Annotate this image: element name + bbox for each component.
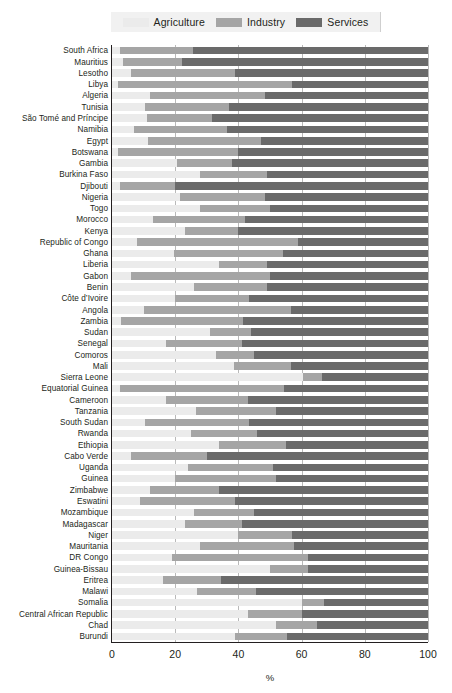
bar-segment-industry: [145, 419, 249, 427]
bar-segment-services: [245, 216, 428, 224]
y-axis-label: Senegal: [0, 339, 108, 348]
bar-segment-industry: [120, 182, 175, 190]
bar-segment-services: [291, 306, 428, 314]
bar-segment-industry: [134, 126, 227, 134]
bar-row: [112, 137, 428, 145]
bar-segment-industry: [219, 261, 266, 269]
bar-rows: [112, 45, 428, 642]
bar-segment-industry: [270, 565, 308, 573]
bar-segment-industry: [118, 148, 238, 156]
bar-row: [112, 193, 428, 201]
bar-segment-services: [251, 328, 428, 336]
y-axis-label: Tunisia: [0, 103, 108, 112]
bar-segment-agriculture: [112, 633, 235, 641]
y-axis-label: Sudan: [0, 328, 108, 337]
bar-segment-services: [283, 250, 428, 258]
bar-row: [112, 238, 428, 246]
bar-segment-industry: [188, 464, 273, 472]
bar-segment-agriculture: [112, 283, 194, 291]
y-axis-label: Zimbabwe: [0, 486, 108, 495]
bar-row: [112, 126, 428, 134]
y-axis-label: Guinea: [0, 474, 108, 483]
y-axis-label: Sierra Leone: [0, 373, 108, 382]
y-axis-label: Burkina Faso: [0, 170, 108, 179]
bar-row: [112, 47, 428, 55]
bar-segment-industry: [150, 92, 265, 100]
bar-segment-industry: [200, 171, 266, 179]
bar-segment-services: [317, 621, 428, 629]
bar-segment-industry: [174, 250, 283, 258]
bar-segment-industry: [148, 137, 260, 145]
y-axis-label: Mozambique: [0, 508, 108, 517]
y-axis-label: DR Congo: [0, 553, 108, 562]
bar-row: [112, 340, 428, 348]
bar-segment-agriculture: [112, 250, 174, 258]
bar-segment-industry: [140, 497, 235, 505]
bar-segment-services: [235, 69, 428, 77]
bar-segment-agriculture: [112, 419, 145, 427]
bar-segment-services: [235, 497, 428, 505]
legend-label-agriculture: Agriculture: [154, 16, 205, 28]
bar-segment-industry: [118, 81, 292, 89]
bar-segment-industry: [120, 47, 193, 55]
bar-segment-industry: [191, 430, 257, 438]
bar-segment-industry: [197, 588, 255, 596]
bar-segment-agriculture: [112, 464, 188, 472]
y-axis-label: Republic of Congo: [0, 238, 108, 247]
bar-segment-agriculture: [112, 351, 216, 359]
bar-segment-industry: [131, 452, 207, 460]
y-axis-label: Malawi: [0, 587, 108, 596]
bar-segment-agriculture: [112, 531, 238, 539]
bar-segment-industry: [120, 385, 284, 393]
bar-row: [112, 486, 428, 494]
bar-segment-industry: [238, 531, 292, 539]
bar-segment-services: [232, 159, 428, 167]
bar-segment-agriculture: [112, 588, 197, 596]
y-axis-label: Gabon: [0, 272, 108, 281]
bar-row: [112, 216, 428, 224]
bar-segment-agriculture: [112, 452, 131, 460]
bar-segment-services: [249, 295, 428, 303]
bar-segment-services: [193, 47, 428, 55]
bar-row: [112, 396, 428, 404]
bar-segment-industry: [194, 509, 254, 517]
bar-segment-agriculture: [112, 69, 131, 77]
x-axis-tick-0: 0: [109, 648, 115, 660]
bar-segment-services: [219, 486, 428, 494]
bar-segment-agriculture: [112, 328, 210, 336]
stacked-bar-chart: AgricultureIndustryServices South Africa…: [0, 0, 452, 693]
bar-segment-services: [292, 81, 428, 89]
bar-segment-services: [248, 396, 428, 404]
legend-entry-services: Services: [296, 16, 368, 28]
y-axis-label: Mauritania: [0, 542, 108, 551]
y-axis-label: Central African Republic: [0, 610, 108, 619]
bar-row: [112, 227, 428, 235]
x-axis-tick-40: 40: [233, 648, 245, 660]
legend-swatch-services: [296, 18, 322, 27]
bar-row: [112, 542, 428, 550]
bar-segment-agriculture: [112, 509, 194, 517]
bar-row: [112, 407, 428, 415]
bar-row: [112, 588, 428, 596]
bar-segment-agriculture: [112, 295, 175, 303]
bar-segment-services: [242, 520, 428, 528]
bar-segment-services: [212, 114, 428, 122]
bar-segment-agriculture: [112, 171, 200, 179]
bar-segment-industry: [137, 238, 298, 246]
bar-segment-services: [302, 610, 428, 618]
bar-row: [112, 159, 428, 167]
bar-segment-industry: [131, 69, 235, 77]
y-axis-label: Somalia: [0, 598, 108, 607]
bar-segment-industry: [185, 520, 242, 528]
bar-segment-agriculture: [112, 126, 134, 134]
bar-segment-industry: [121, 317, 243, 325]
bar-segment-services: [308, 554, 428, 562]
y-axis-labels: South AfricaMauritiusLesothoLibyaAlgeria…: [0, 45, 108, 642]
bar-row: [112, 554, 428, 562]
bar-segment-agriculture: [112, 362, 234, 370]
bar-row: [112, 621, 428, 629]
y-axis-label: Tanzania: [0, 407, 108, 416]
y-axis-label: Mauritius: [0, 58, 108, 67]
y-axis-label: São Tomé and Príncipe: [0, 114, 108, 123]
bar-row: [112, 520, 428, 528]
